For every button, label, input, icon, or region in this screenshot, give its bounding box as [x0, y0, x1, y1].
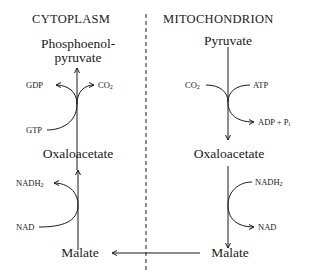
cytoplasm-heading: CYTOPLASM	[32, 12, 110, 27]
mito-nadh2-label: NADH2	[255, 177, 283, 187]
co2-label: CO2	[98, 80, 113, 90]
cytoplasm-oxaloacetate-label: Oxaloacetate	[28, 147, 128, 161]
phosphoenolpyruvate-label: Phosphoenol- pyruvate	[28, 37, 128, 65]
mito-malate-label: Malate	[208, 246, 252, 260]
mito-nad-label: NAD	[258, 222, 276, 232]
nad-label: NAD	[16, 222, 34, 232]
gtp-label: GTP	[26, 125, 42, 135]
nadh2-label: NADH2	[16, 178, 44, 188]
cytoplasm-malate-label: Malate	[58, 246, 102, 260]
mito-oxaloacetate-label: Oxaloacetate	[186, 147, 272, 161]
atp-label: ATP	[253, 80, 268, 90]
mitochondrion-heading: MITOCHONDRION	[163, 12, 274, 27]
pyruvate-label: Pyruvate	[190, 34, 266, 48]
mito-co2-label: CO2	[185, 80, 200, 90]
gdp-label: GDP	[26, 80, 43, 90]
adp-pi-label: ADP + Pi	[258, 117, 290, 127]
